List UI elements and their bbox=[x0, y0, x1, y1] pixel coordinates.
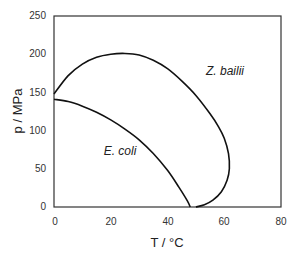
x-tick: 60 bbox=[218, 216, 230, 227]
y-axis-ticks: 0 50 100 150 200 250 bbox=[29, 10, 46, 212]
y-tick: 0 bbox=[40, 201, 46, 212]
z-bailii-label: Z. bailii bbox=[205, 64, 244, 78]
x-tick: 80 bbox=[275, 216, 287, 227]
plot-frame bbox=[54, 16, 281, 207]
z-bailii-curve bbox=[54, 53, 229, 207]
y-tick: 150 bbox=[29, 87, 46, 98]
x-tick: 40 bbox=[162, 216, 174, 227]
y-tick: 50 bbox=[35, 163, 47, 174]
y-tick: 200 bbox=[29, 48, 46, 59]
y-tick: 250 bbox=[29, 10, 46, 21]
x-axis-label: T / °C bbox=[150, 235, 183, 250]
x-tick: 0 bbox=[52, 216, 58, 227]
y-tick: 100 bbox=[29, 125, 46, 136]
pressure-temperature-chart: 0 50 100 150 200 250 0 20 40 60 80 T / °… bbox=[0, 0, 304, 258]
y-axis-label: p / MPa bbox=[10, 88, 25, 134]
x-axis-ticks: 0 20 40 60 80 bbox=[52, 216, 287, 227]
e-coli-label: E. coli bbox=[104, 144, 137, 158]
x-tick: 20 bbox=[105, 216, 117, 227]
